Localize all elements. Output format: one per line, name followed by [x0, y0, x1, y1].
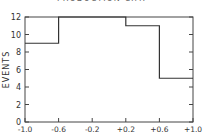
x-tick-label: -1.0 [18, 125, 33, 134]
histogram-chart: 024681012-1.0-0.6-0.2+0.2+0.6+1.0EVENTS [0, 0, 203, 137]
y-tick-label: 6 [16, 66, 21, 75]
y-tick-label: 12 [11, 13, 21, 22]
x-tick-label: +0.6 [150, 125, 168, 134]
plot-frame [25, 17, 193, 122]
y-tick-label: 2 [16, 101, 21, 110]
y-tick-label: 10 [11, 31, 21, 40]
x-tick-label: -0.2 [85, 125, 100, 134]
y-tick-label: 8 [16, 48, 21, 57]
y-axis-label: EVENTS [2, 51, 11, 89]
x-tick-label: -0.6 [51, 125, 66, 134]
y-tick-label: 4 [16, 83, 21, 92]
histogram-step-line [25, 17, 193, 78]
x-tick-label: +1.0 [184, 125, 202, 134]
x-tick-label: +0.2 [117, 125, 135, 134]
